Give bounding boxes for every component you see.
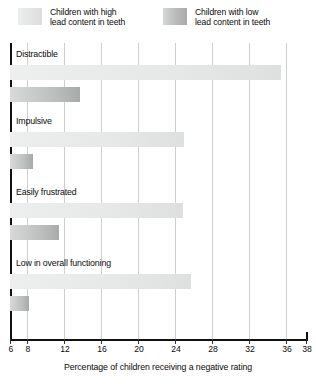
category-label-easily-frustrated: Easily frustrated <box>16 187 77 197</box>
bar-distractible-high-lead <box>10 65 281 80</box>
chart-figure: Children with high lead content in teeth… <box>0 0 316 384</box>
legend-item-low-lead: Children with low lead content in teeth <box>163 7 270 27</box>
gridline-28 <box>212 43 213 340</box>
gridline-16 <box>101 43 102 340</box>
x-axis-tick-labels: 6 8 12 16 20 24 28 32 36 38 <box>0 344 316 357</box>
category-label-distractible: Distractible <box>16 49 58 59</box>
bar-impulsive-high-lead <box>10 132 184 147</box>
x-tick-label-8: 8 <box>26 344 31 354</box>
bar-distractible-low-lead <box>10 87 80 102</box>
x-tick-label-20: 20 <box>134 344 144 354</box>
gridline-24 <box>175 43 176 340</box>
bar-impulsive-low-lead <box>10 154 33 169</box>
x-tick-label-16: 16 <box>97 344 107 354</box>
legend-label-high-lead: Children with high lead content in teeth <box>50 7 125 27</box>
x-tick-label-28: 28 <box>208 344 218 354</box>
gridline-20 <box>138 43 139 340</box>
plot-area: Distractible Impulsive Easily frustrated… <box>0 41 316 341</box>
x-axis-title: Percentage of children receiving a negat… <box>0 362 316 372</box>
gridline-36 <box>286 43 287 340</box>
x-tick-label-32: 32 <box>245 344 255 354</box>
bar-low-overall-functioning-low-lead <box>10 296 29 311</box>
x-axis-line <box>10 339 308 341</box>
x-tick-label-12: 12 <box>60 344 70 354</box>
legend-swatch-high-lead-icon <box>18 8 42 25</box>
legend-swatch-low-lead-icon <box>163 8 187 25</box>
legend-item-high-lead: Children with high lead content in teeth <box>18 7 125 27</box>
x-tick-label-6: 6 <box>9 344 14 354</box>
category-label-low-overall-functioning: Low in overall functioning <box>16 258 111 268</box>
bar-low-overall-functioning-high-lead <box>10 274 191 289</box>
x-tick-label-24: 24 <box>171 344 181 354</box>
bar-easily-frustrated-low-lead <box>10 225 59 240</box>
legend-label-low-lead: Children with low lead content in teeth <box>195 7 270 27</box>
x-tick-label-38: 38 <box>302 344 312 354</box>
chart-legend: Children with high lead content in teeth… <box>0 0 316 38</box>
bar-easily-frustrated-high-lead <box>10 203 183 218</box>
x-tick-label-36: 36 <box>282 344 292 354</box>
gridline-32 <box>249 43 250 340</box>
category-label-impulsive: Impulsive <box>16 116 52 126</box>
